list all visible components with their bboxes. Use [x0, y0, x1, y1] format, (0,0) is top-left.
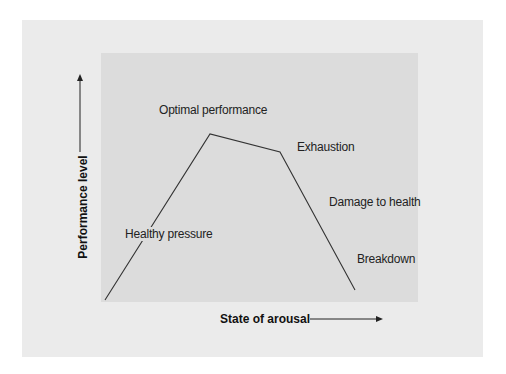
x-axis-arrow-icon: [310, 316, 383, 322]
y-axis-label: Performance level: [76, 155, 90, 258]
performance-curve: [105, 134, 355, 300]
x-axis-label: State of arousal: [220, 312, 310, 326]
label-damage-to-health: Damage to health: [329, 195, 421, 209]
label-breakdown: Breakdown: [357, 252, 415, 266]
label-healthy-pressure: Healthy pressure: [123, 227, 215, 241]
y-axis-arrow-icon: [77, 74, 83, 152]
label-optimal-performance: Optimal performance: [159, 103, 267, 117]
label-exhaustion: Exhaustion: [297, 140, 354, 154]
